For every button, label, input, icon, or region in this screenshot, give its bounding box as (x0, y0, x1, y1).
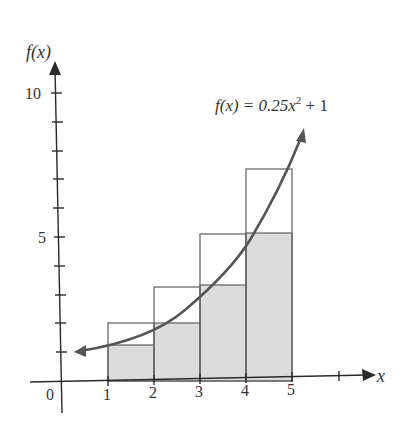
lower-rect-1 (108, 345, 154, 381)
curve-left-arrow-icon (74, 345, 86, 357)
equation-annotation: f(x) = 0.25x2 + 1 (215, 94, 328, 115)
equation-suffix: + 1 (301, 96, 328, 115)
equation-prefix: f(x) = 0.25x (215, 96, 296, 115)
curve-right-arrow-icon (296, 128, 306, 143)
riemann-sum-chart: f(x) x 0 1 2 3 4 5 5 10 f(x) = 0.25x2 + … (0, 0, 407, 430)
y-axis-label: f(x) (26, 42, 51, 63)
lower-rect-2 (154, 323, 200, 381)
y-tick-label-5: 5 (38, 229, 46, 246)
x-tick-label-2: 2 (149, 384, 157, 401)
y-axis (51, 68, 67, 413)
x-tick-label-5: 5 (287, 381, 295, 398)
x-tick-label-3: 3 (195, 383, 203, 400)
y-tick-label-10: 10 (25, 85, 41, 102)
x-axis-label: x (376, 366, 385, 386)
y-axis-arrow-icon (49, 61, 61, 75)
origin-label: 0 (46, 386, 54, 403)
x-tick-label-1: 1 (103, 386, 111, 403)
x-tick-label-4: 4 (241, 382, 249, 399)
lower-rect-4 (246, 233, 292, 381)
x-axis-arrow-icon (362, 369, 376, 381)
lower-rect-3 (200, 285, 246, 381)
